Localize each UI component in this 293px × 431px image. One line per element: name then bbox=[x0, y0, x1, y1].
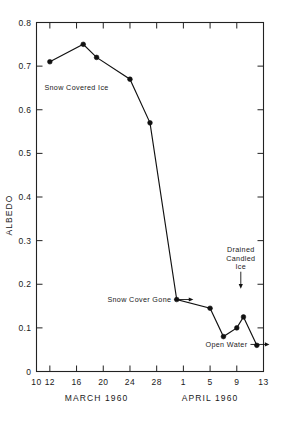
y-tick-label: 0.8 bbox=[18, 18, 31, 28]
y-tick-label: 0.2 bbox=[18, 279, 31, 289]
data-point bbox=[221, 334, 226, 339]
x-tick-label: 10 bbox=[31, 377, 41, 387]
data-point bbox=[128, 77, 133, 82]
chart-background bbox=[0, 0, 293, 431]
x-period-label: APRIL 1960 bbox=[182, 393, 239, 403]
y-tick-label: 0.7 bbox=[18, 61, 31, 71]
x-period-label: MARCH 1960 bbox=[65, 393, 128, 403]
x-tick-label: 20 bbox=[98, 377, 108, 387]
data-point bbox=[48, 59, 53, 64]
data-point bbox=[94, 55, 99, 60]
x-tick-label: 28 bbox=[152, 377, 162, 387]
x-tick-label: 5 bbox=[208, 377, 213, 387]
x-tick-label: 12 bbox=[45, 377, 55, 387]
data-point bbox=[148, 120, 153, 125]
annotation-label: Open Water bbox=[205, 340, 247, 349]
annotation-label: Snow Cover Gone bbox=[107, 295, 171, 304]
y-tick-label: 0.6 bbox=[18, 105, 31, 115]
y-tick-label: 0.5 bbox=[18, 148, 31, 158]
annotation-label-line: Ice bbox=[235, 262, 246, 271]
data-point bbox=[81, 42, 86, 47]
y-axis-title-text: ALBEDO bbox=[4, 194, 14, 235]
x-tick-label: 16 bbox=[71, 377, 81, 387]
albedo-line-chart: 00.10.20.30.40.50.60.70.8 10121620242815… bbox=[0, 0, 293, 431]
y-axis-title: ALBEDO bbox=[4, 194, 14, 235]
x-tick-label: 24 bbox=[125, 377, 135, 387]
x-tick-label: 9 bbox=[234, 377, 239, 387]
y-tick-label: 0.3 bbox=[18, 236, 31, 246]
data-point bbox=[234, 326, 239, 331]
y-tick-label: 0.4 bbox=[18, 192, 31, 202]
data-point bbox=[241, 315, 246, 320]
x-tick-label: 13 bbox=[258, 377, 268, 387]
data-point bbox=[254, 343, 259, 348]
y-tick-label: 0 bbox=[26, 367, 31, 377]
x-tick-label: 1 bbox=[181, 377, 186, 387]
annotation-label: Snow Covered Ice bbox=[44, 83, 108, 92]
data-point bbox=[208, 306, 213, 311]
albedo-chart-figure: 00.10.20.30.40.50.60.70.8 10121620242815… bbox=[0, 0, 293, 431]
y-tick-label: 0.1 bbox=[18, 323, 31, 333]
